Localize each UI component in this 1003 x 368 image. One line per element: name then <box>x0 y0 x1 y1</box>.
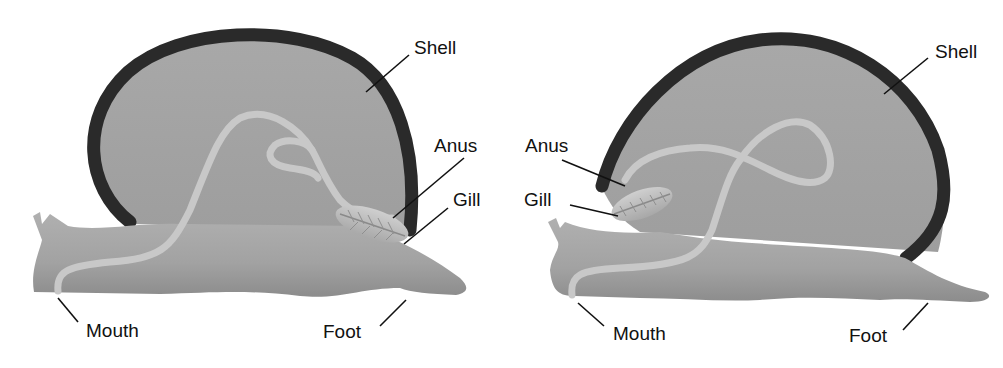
left-foot-label: Foot <box>323 322 361 341</box>
left-shell-label: Shell <box>414 38 456 57</box>
left-anus-label: Anus <box>434 136 477 155</box>
right-gill-leader <box>570 205 618 216</box>
left-gill-label: Gill <box>453 190 480 209</box>
left-mouth-label: Mouth <box>86 321 139 340</box>
left-snail <box>33 35 466 297</box>
right-snail <box>548 39 989 302</box>
right-foot-leader <box>903 303 928 330</box>
right-shell-label: Shell <box>935 42 977 61</box>
diagram-canvas: Shell Anus Gill Mouth Foot Shell Anus Gi… <box>0 0 1003 368</box>
right-mouth-leader <box>578 303 604 326</box>
right-gill-label: Gill <box>524 190 551 209</box>
right-foot-label: Foot <box>849 326 887 345</box>
right-mouth-label: Mouth <box>613 324 666 343</box>
right-shell-body <box>602 41 944 252</box>
left-foot-leader <box>380 300 406 326</box>
left-mouth-leader <box>58 298 78 322</box>
right-anus-label: Anus <box>525 136 568 155</box>
